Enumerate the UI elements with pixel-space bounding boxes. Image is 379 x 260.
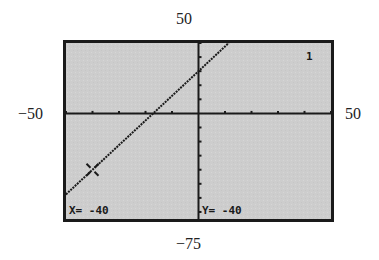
trace-y-readout: Y= -40 xyxy=(202,204,242,217)
xmax-label: 50 xyxy=(345,106,361,122)
trace-x-readout: X= -40 xyxy=(69,204,109,217)
xmin-label: −50 xyxy=(18,106,43,122)
ymax-label: 50 xyxy=(176,11,192,27)
graph-canvas: 1 X= -40 Y= -40 xyxy=(63,40,334,222)
plot-indicator: 1 xyxy=(306,50,313,63)
calculator-graph-screen: 1 X= -40 Y= -40 xyxy=(63,40,334,222)
ymin-label: −75 xyxy=(176,236,201,252)
